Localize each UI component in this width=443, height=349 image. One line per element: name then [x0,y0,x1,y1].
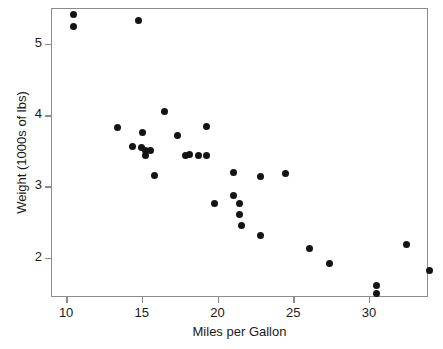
y-tick-label: 5 [20,35,42,50]
y-axis-label: Weight (1000s of lbs) [14,48,29,258]
data-point [236,211,243,218]
x-tick-mark [66,297,68,303]
data-point [147,147,154,154]
data-point [139,129,146,136]
data-point [238,222,245,229]
x-tick-mark [142,297,144,303]
y-tick-label: 2 [20,249,42,264]
data-point [203,152,210,159]
data-point [373,290,380,297]
x-tick-mark [218,297,220,303]
data-point [306,245,313,252]
y-tick-mark [45,186,51,188]
data-point [186,151,193,158]
y-tick-mark [45,258,51,260]
data-point [403,241,410,248]
data-point [236,200,243,207]
y-tick-mark [45,115,51,117]
x-tick-label: 30 [349,305,389,320]
x-tick-label: 10 [46,305,86,320]
x-tick-mark [293,297,295,303]
data-point [174,132,181,139]
data-point [114,124,121,131]
data-point [70,23,77,30]
data-point [161,108,168,115]
x-tick-label: 20 [198,305,238,320]
x-tick-label: 15 [122,305,162,320]
x-tick-mark [369,297,371,303]
data-point [326,260,333,267]
data-point [426,267,433,274]
data-point [70,11,77,18]
data-point [203,123,210,130]
data-point [230,169,237,176]
data-point [135,17,142,24]
x-tick-label: 25 [273,305,313,320]
plot-area-frame [51,8,428,297]
data-point [211,200,218,207]
data-point [129,143,136,150]
data-point [230,192,237,199]
data-points-layer [52,9,427,296]
data-point [151,172,158,179]
data-point [257,173,264,180]
data-point [373,282,380,289]
y-tick-mark [45,44,51,46]
y-tick-label: 4 [20,106,42,121]
scatter-plot-figure: Miles per Gallon Weight (1000s of lbs) 1… [0,0,443,349]
data-point [195,152,202,159]
x-axis-label: Miles per Gallon [51,324,428,339]
data-point [282,170,289,177]
data-point [257,232,264,239]
y-tick-label: 3 [20,177,42,192]
